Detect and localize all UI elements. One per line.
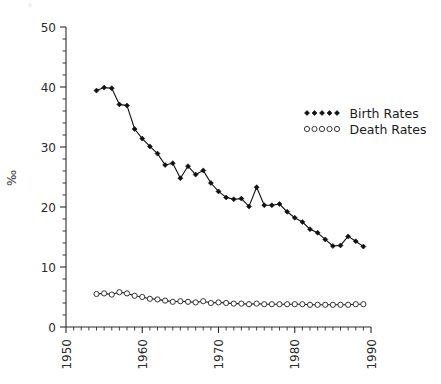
data-point	[361, 302, 366, 307]
data-point	[330, 302, 335, 307]
rates-line-chart: 01020304050 ‰ 19501960197019801990 Birth…	[0, 0, 441, 384]
data-point	[163, 298, 168, 303]
x-tick-label: 1950	[60, 339, 74, 370]
data-point	[346, 302, 351, 307]
y-axis-label: ‰	[5, 170, 19, 186]
y-tick-label: 30	[41, 141, 56, 155]
data-point	[132, 293, 137, 298]
top-left-artifact	[28, 3, 32, 7]
data-point	[254, 301, 259, 306]
y-tick-label: 20	[41, 201, 56, 215]
legend-label: Death Rates	[350, 122, 427, 137]
data-point	[155, 297, 160, 302]
data-point	[353, 302, 358, 307]
data-point	[323, 302, 328, 307]
x-tick-label: 1970	[212, 339, 226, 370]
data-point	[117, 290, 122, 295]
data-point	[262, 302, 267, 307]
data-point	[216, 300, 221, 305]
data-point	[201, 299, 206, 304]
y-tick-label: 50	[41, 21, 56, 35]
legend-marker	[312, 126, 317, 131]
data-point	[109, 292, 114, 297]
x-tick-label: 1980	[288, 339, 302, 370]
data-point	[147, 296, 152, 301]
data-point	[300, 302, 305, 307]
data-point	[94, 291, 99, 296]
legend-marker	[327, 126, 332, 131]
data-point	[140, 294, 145, 299]
data-point	[124, 291, 129, 296]
data-point	[102, 291, 107, 296]
x-tick-label: 1960	[136, 339, 150, 370]
data-point	[307, 302, 312, 307]
data-point	[277, 302, 282, 307]
data-point	[292, 302, 297, 307]
data-point	[231, 301, 236, 306]
data-point	[285, 302, 290, 307]
data-point	[170, 299, 175, 304]
data-point	[208, 300, 213, 305]
y-tick-label: 10	[41, 261, 56, 275]
data-point	[224, 300, 229, 305]
data-point	[246, 302, 251, 307]
legend-marker	[319, 126, 324, 131]
data-point	[193, 300, 198, 305]
data-point	[269, 302, 274, 307]
chart-container: 01020304050 ‰ 19501960197019801990 Birth…	[0, 0, 441, 384]
data-point	[185, 299, 190, 304]
y-tick-label: 0	[48, 321, 56, 335]
legend-marker	[334, 126, 339, 131]
x-tick-label: 1990	[365, 339, 379, 370]
data-point	[338, 302, 343, 307]
y-tick-label: 40	[41, 81, 56, 95]
legend-label: Birth Rates	[350, 106, 419, 121]
data-point	[239, 301, 244, 306]
data-point	[178, 299, 183, 304]
data-point	[315, 302, 320, 307]
legend-marker	[304, 126, 309, 131]
